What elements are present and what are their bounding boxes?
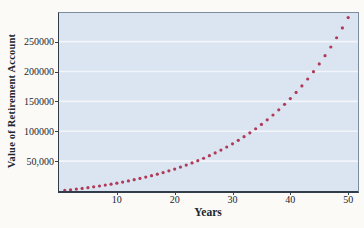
retirement-account-chart: Value of Retirement Account 50,000100000…: [0, 0, 364, 228]
data-point: [202, 157, 205, 160]
x-tick-label: 30: [220, 194, 246, 205]
data-point: [127, 179, 130, 182]
data-point: [329, 45, 332, 48]
data-point: [109, 183, 112, 186]
data-point: [150, 174, 153, 177]
data-point: [156, 173, 159, 176]
data-point: [300, 84, 303, 87]
chart-page: Value of Retirement Account 50,000100000…: [0, 0, 364, 228]
data-point: [214, 151, 217, 154]
y-tick-mark: [55, 72, 58, 73]
data-point: [115, 182, 118, 185]
data-point: [341, 26, 344, 29]
x-tick-label: 20: [162, 194, 188, 205]
data-point: [347, 16, 350, 19]
data-point: [231, 142, 234, 145]
data-point: [121, 180, 124, 183]
data-point: [185, 163, 188, 166]
x-tick-mark: [233, 192, 234, 195]
data-point: [133, 178, 136, 181]
data-point: [179, 166, 182, 169]
scatter-plot: [59, 13, 358, 191]
x-tick-mark: [290, 192, 291, 195]
data-point: [98, 184, 101, 187]
data-point: [289, 97, 292, 100]
data-point: [271, 113, 274, 116]
y-tick-label: 150000: [0, 96, 54, 107]
data-point: [295, 91, 298, 94]
data-point: [283, 103, 286, 106]
x-axis-title: Years: [194, 206, 221, 218]
data-point: [75, 187, 78, 190]
x-tick-mark: [348, 192, 349, 195]
y-tick-label: 100000: [0, 126, 54, 137]
data-point: [92, 185, 95, 188]
data-point: [190, 161, 193, 164]
y-tick-label: 50,000: [0, 156, 54, 167]
data-point: [225, 145, 228, 148]
data-point: [162, 171, 165, 174]
data-point: [144, 175, 147, 178]
data-point: [86, 186, 89, 189]
data-point: [167, 169, 170, 172]
data-point: [208, 154, 211, 157]
data-point: [248, 131, 251, 134]
data-point: [266, 118, 269, 121]
data-point: [81, 187, 84, 190]
y-tick-mark: [55, 42, 58, 43]
data-point: [173, 167, 176, 170]
data-point: [196, 159, 199, 162]
data-point: [318, 62, 321, 65]
data-point: [237, 139, 240, 142]
y-tick-mark: [55, 131, 58, 132]
y-tick-mark: [55, 101, 58, 102]
x-tick-label: 40: [277, 194, 303, 205]
data-point: [277, 108, 280, 111]
x-tick-mark: [175, 192, 176, 195]
data-point: [306, 77, 309, 80]
data-point: [104, 183, 107, 186]
data-point: [242, 135, 245, 138]
data-point: [254, 127, 257, 130]
plot-area: [58, 12, 359, 193]
y-tick-mark: [55, 161, 58, 162]
data-point: [219, 148, 222, 151]
y-tick-label: 200000: [0, 66, 54, 77]
x-tick-label: 50: [335, 194, 361, 205]
data-point: [312, 70, 315, 73]
x-tick-mark: [117, 192, 118, 195]
data-point: [335, 36, 338, 39]
y-tick-label: 250000: [0, 36, 54, 47]
x-tick-label: 10: [104, 194, 130, 205]
data-point: [260, 123, 263, 126]
data-point: [138, 177, 141, 180]
data-point: [323, 54, 326, 57]
